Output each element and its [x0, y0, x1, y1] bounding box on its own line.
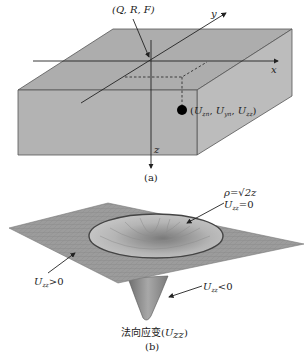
origin-label: (Q, R, F) — [112, 4, 155, 15]
caption-b: (b) — [145, 341, 159, 352]
negative-strain-label: Uzz<0 — [203, 281, 233, 293]
positive-strain-label: Uzz>0 — [34, 276, 64, 288]
figure-canvas: (Q, R, F) y x z (Uzn, Uyn, Uzz) (a) ρ=√2… — [0, 0, 307, 359]
ring-label-uzz: Uzz=0 — [224, 199, 254, 211]
caption-a: (a) — [144, 172, 158, 183]
ring-label-rho: ρ=√2z — [223, 187, 257, 198]
figure-b: ρ=√2z Uzz=0 Uzz>0 Uzz<0 法向应变(Uzz) (b) — [9, 187, 304, 352]
figure-b-title: 法向应变(Uzz) — [121, 326, 188, 340]
axis-x-label: x — [271, 64, 277, 75]
figure-a: (Q, R, F) y x z (Uzn, Uyn, Uzz) (a) — [18, 4, 292, 183]
positive-pointer-arrow — [48, 253, 75, 273]
ring-pointer-arrow — [187, 203, 224, 223]
funnel-tip — [128, 276, 168, 320]
negative-pointer-arrow — [169, 286, 202, 297]
axis-z-label: z — [153, 144, 160, 155]
box-front-face — [18, 90, 197, 155]
observation-point — [177, 105, 187, 115]
axis-y-label: y — [210, 8, 217, 19]
